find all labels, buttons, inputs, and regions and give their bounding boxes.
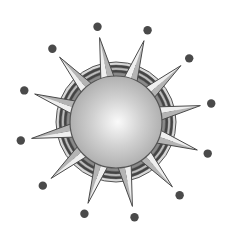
- orbit-dot: [80, 210, 88, 218]
- sun-illustration: [0, 0, 225, 237]
- orbit-dot: [204, 149, 212, 157]
- orbit-dot: [130, 213, 138, 221]
- orbit-dot: [175, 191, 183, 199]
- orbit-dot: [185, 54, 193, 62]
- orbit-dot: [207, 99, 215, 107]
- central-sphere: [70, 76, 162, 168]
- orbit-dot: [20, 86, 28, 94]
- sun-burst-icon: [0, 0, 225, 237]
- orbit-dot: [93, 23, 101, 31]
- orbit-dot: [48, 45, 56, 53]
- orbit-dot: [143, 26, 151, 34]
- orbit-dot: [17, 136, 25, 144]
- orbit-dot: [39, 181, 47, 189]
